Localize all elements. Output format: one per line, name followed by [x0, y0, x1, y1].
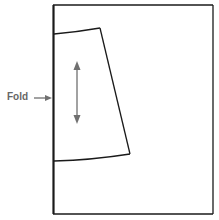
grainline-arrow-icon — [74, 61, 81, 124]
pattern-piece — [54, 28, 130, 161]
arrow-right-icon — [34, 95, 52, 101]
fold-label: Fold — [7, 91, 28, 102]
